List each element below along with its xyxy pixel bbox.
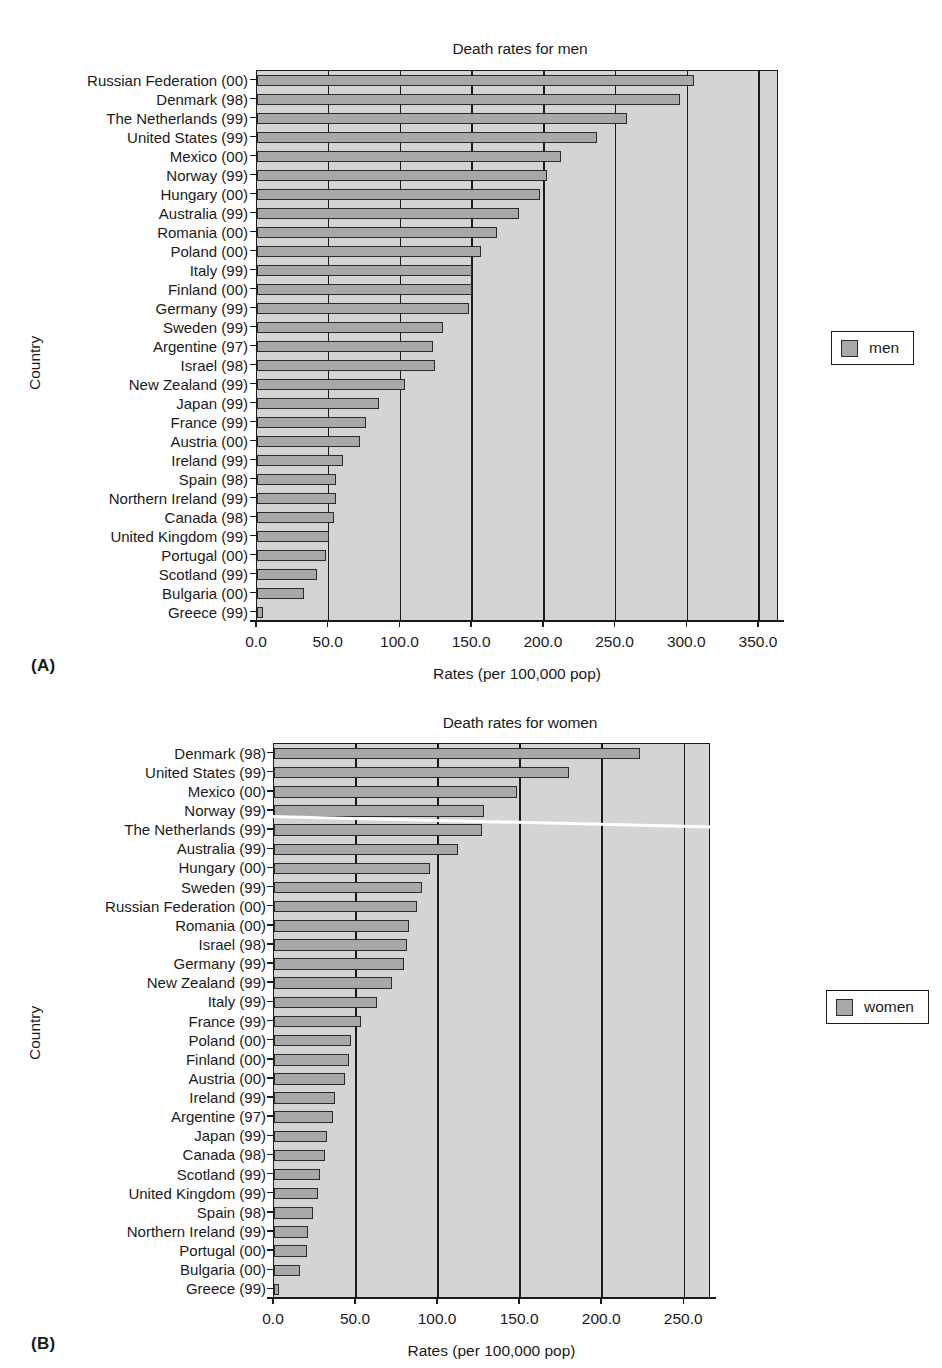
category-label-women-7: Sweden (99): [181, 879, 266, 894]
bar-women-14: [274, 1016, 361, 1028]
x-tick-women-200: [600, 1297, 602, 1304]
x-tick-women-250: [683, 1297, 685, 1304]
bar-men-20: [257, 455, 343, 467]
category-label-men-17: Japan (99): [176, 395, 248, 410]
category-label-men-6: Hungary (00): [160, 186, 248, 201]
y-tick-women-11: [267, 962, 273, 964]
x-tick-men-150: [470, 620, 472, 627]
y-tick-men-19: [250, 440, 256, 442]
y-tick-men-3: [250, 136, 256, 138]
gridline-300: [687, 71, 689, 620]
x-axis-title-women: Rates (per 100,000 pop): [273, 1342, 710, 1360]
bar-men-28: [257, 607, 263, 619]
y-tick-men-21: [250, 478, 256, 480]
x-tick-label-women-50: 50.0: [340, 1310, 370, 1328]
y-tick-women-5: [267, 848, 273, 850]
y-tick-men-5: [250, 174, 256, 176]
y-tick-men-27: [250, 592, 256, 594]
y-tick-men-2: [250, 117, 256, 119]
category-label-men-8: Romania (00): [157, 224, 248, 239]
y-tick-women-8: [267, 905, 273, 907]
y-tick-women-13: [267, 1001, 273, 1003]
category-label-women-18: Ireland (99): [189, 1090, 266, 1105]
plot-area-women: [273, 743, 710, 1298]
bar-men-2: [257, 113, 627, 125]
bar-women-18: [274, 1092, 335, 1104]
bar-men-10: [257, 265, 472, 277]
category-label-men-9: Poland (00): [170, 243, 248, 258]
y-tick-women-10: [267, 943, 273, 945]
x-tick-women-150: [518, 1297, 520, 1304]
legend-swatch-women-icon: [836, 999, 853, 1016]
category-label-men-11: Finland (00): [168, 281, 248, 296]
y-tick-women-9: [267, 924, 273, 926]
category-label-men-10: Italy (99): [190, 262, 248, 277]
category-label-men-18: France (99): [170, 414, 248, 429]
y-tick-men-9: [250, 250, 256, 252]
legend-women: women: [826, 990, 929, 1024]
category-label-men-16: New Zealand (99): [129, 376, 248, 391]
bar-men-16: [257, 379, 405, 391]
y-tick-men-28: [250, 611, 256, 613]
bar-men-1: [257, 94, 680, 106]
category-label-women-19: Argentine (97): [171, 1109, 266, 1124]
y-tick-men-26: [250, 573, 256, 575]
category-label-women-17: Austria (00): [188, 1070, 266, 1085]
bar-men-25: [257, 550, 326, 562]
y-tick-women-27: [267, 1269, 273, 1271]
category-label-women-22: Scotland (99): [177, 1166, 266, 1181]
y-tick-women-2: [267, 790, 273, 792]
category-label-men-5: Norway (99): [166, 167, 248, 182]
bar-women-4: [274, 824, 482, 836]
category-labels-women: Denmark (98)United States (99)Mexico (00…: [40, 743, 266, 1298]
legend-men: men: [831, 331, 914, 365]
bar-women-19: [274, 1111, 333, 1123]
category-label-women-10: Israel (98): [198, 936, 266, 951]
bar-women-17: [274, 1073, 345, 1085]
category-label-women-20: Japan (99): [194, 1128, 266, 1143]
bar-men-17: [257, 398, 379, 410]
category-label-women-25: Northern Ireland (99): [127, 1224, 266, 1239]
category-label-women-13: Italy (99): [208, 994, 266, 1009]
y-axis-title-men: Country: [26, 336, 44, 390]
panel-men: Death rates for men Russian Federation (…: [0, 0, 942, 690]
bar-men-9: [257, 246, 481, 258]
bar-men-3: [257, 132, 597, 144]
category-label-women-15: Poland (00): [188, 1032, 266, 1047]
y-tick-men-20: [250, 459, 256, 461]
y-tick-men-23: [250, 516, 256, 518]
bar-women-20: [274, 1131, 327, 1143]
bar-women-16: [274, 1054, 349, 1066]
x-axis-title-men: Rates (per 100,000 pop): [256, 665, 778, 683]
plot-area-men: [256, 70, 778, 621]
y-tick-men-1: [250, 98, 256, 100]
panel-women: Death rates for women Denmark (98)United…: [0, 690, 942, 1368]
bar-women-24: [274, 1207, 313, 1219]
category-label-men-23: Canada (98): [165, 509, 248, 524]
y-tick-women-0: [267, 752, 273, 754]
category-label-men-24: United Kingdom (99): [110, 528, 248, 543]
bar-men-23: [257, 512, 334, 524]
chart-title-women: Death rates for women: [260, 714, 780, 732]
y-tick-men-11: [250, 288, 256, 290]
bar-women-21: [274, 1150, 325, 1162]
bar-women-15: [274, 1035, 351, 1047]
y-tick-men-13: [250, 326, 256, 328]
legend-label-women: women: [864, 998, 914, 1016]
bar-men-6: [257, 189, 540, 201]
y-tick-women-4: [267, 828, 273, 830]
y-tick-men-15: [250, 364, 256, 366]
y-tick-women-17: [267, 1077, 273, 1079]
bar-men-14: [257, 341, 433, 353]
category-label-men-0: Russian Federation (00): [87, 72, 248, 87]
y-tick-men-8: [250, 231, 256, 233]
y-tick-men-4: [250, 155, 256, 157]
x-tick-men-50: [327, 620, 329, 627]
y-tick-men-7: [250, 212, 256, 214]
bar-women-26: [274, 1245, 307, 1257]
y-tick-men-25: [250, 554, 256, 556]
category-label-men-26: Scotland (99): [159, 566, 248, 581]
bar-women-22: [274, 1169, 320, 1181]
x-tick-label-women-0: 0.0: [262, 1310, 284, 1328]
bar-men-26: [257, 569, 317, 581]
